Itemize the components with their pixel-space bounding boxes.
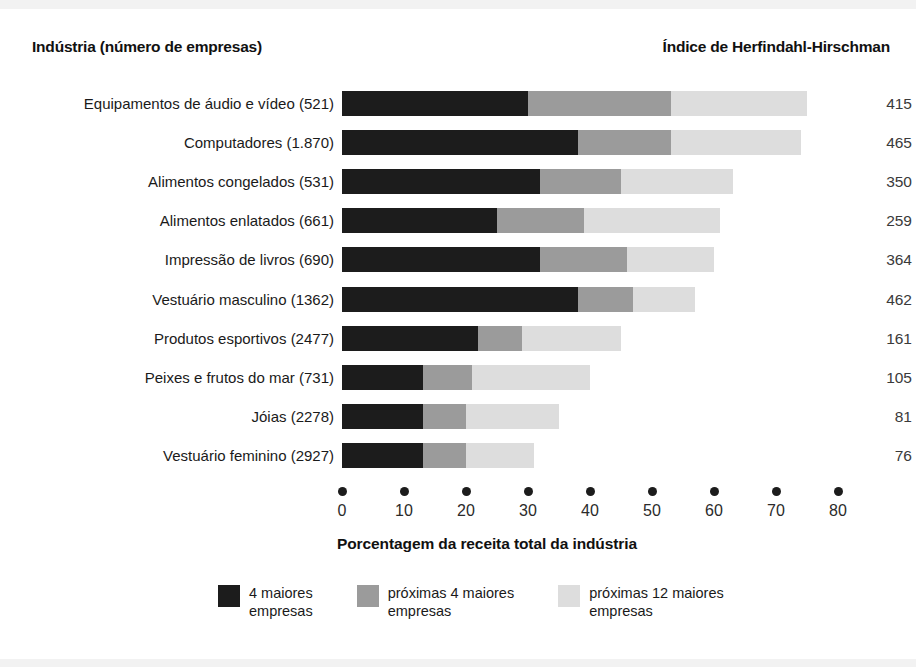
stacked-bar	[342, 130, 801, 155]
chart-row: Peixes e frutos do mar (731)105	[342, 365, 838, 390]
x-axis-title-text: Porcentagem da receita total da indústri…	[337, 535, 637, 553]
x-axis-tick: 30	[508, 487, 548, 519]
x-axis-tick-label: 20	[446, 503, 486, 519]
chart-row: Alimentos enlatados (661)259	[342, 208, 838, 233]
x-axis-tick: 10	[384, 487, 424, 519]
tick-dot-icon	[710, 487, 719, 496]
legend-label-line1: 4 maiores	[249, 584, 313, 602]
tick-dot-icon	[648, 487, 657, 496]
bar-segment-3	[466, 404, 559, 429]
chart-row: Alimentos congelados (531)350	[342, 169, 838, 194]
hhi-value: 350	[838, 169, 912, 194]
row-label-industry: Equipamentos de áudio e vídeo (521)	[84, 91, 334, 116]
hhi-value: 465	[838, 130, 912, 155]
bar-segment-1	[342, 287, 578, 312]
legend-label: próximas 12 maioresempresas	[589, 584, 724, 620]
row-label-industry: Vestuário masculino (1362)	[152, 287, 334, 312]
bar-segment-3	[621, 169, 733, 194]
hhi-value: 462	[838, 287, 912, 312]
stacked-bar	[342, 247, 714, 272]
tick-dot-icon	[338, 487, 347, 496]
bar-segment-3	[466, 443, 534, 468]
legend-label-line2: empresas	[388, 602, 515, 620]
bar-segment-3	[472, 365, 590, 390]
x-axis-tick: 0	[322, 487, 362, 519]
column-header-hhi: Índice de Herfindahl-Hirschman	[663, 38, 890, 56]
chart-row: Jóias (2278)81	[342, 404, 838, 429]
legend-label-line2: empresas	[249, 602, 313, 620]
stacked-bar	[342, 169, 733, 194]
tick-dot-icon	[834, 487, 843, 496]
tick-dot-icon	[462, 487, 471, 496]
bar-segment-3	[584, 208, 720, 233]
hhi-value: 415	[838, 91, 912, 116]
bar-segment-2	[528, 91, 671, 116]
row-label-industry: Vestuário feminino (2927)	[163, 443, 334, 468]
chart-page: Indústria (número de empresas) Índice de…	[0, 0, 916, 667]
stacked-bar	[342, 404, 559, 429]
legend-label: próximas 4 maioresempresas	[388, 584, 515, 620]
x-axis: 01020304050607080	[342, 487, 838, 533]
row-label-industry: Computadores (1.870)	[184, 130, 334, 155]
legend-swatch-icon	[218, 585, 240, 607]
stacked-bar	[342, 91, 807, 116]
x-axis-tick: 20	[446, 487, 486, 519]
legend-swatch-icon	[357, 585, 379, 607]
chart-row: Vestuário masculino (1362)462	[342, 287, 838, 312]
bar-segment-3	[633, 287, 695, 312]
x-axis-tick-label: 60	[694, 503, 734, 519]
stacked-bar	[342, 326, 621, 351]
hhi-value: 76	[838, 443, 912, 468]
bar-segment-1	[342, 130, 578, 155]
x-axis-tick-label: 80	[818, 503, 858, 519]
bar-segment-1	[342, 247, 540, 272]
legend-item: próximas 12 maioresempresas	[558, 584, 724, 620]
x-axis-tick: 80	[818, 487, 858, 519]
chart-legend: 4 maioresempresaspróximas 4 maioresempre…	[218, 584, 724, 620]
hhi-value: 105	[838, 365, 912, 390]
bar-segment-3	[627, 247, 714, 272]
tick-dot-icon	[524, 487, 533, 496]
row-label-industry: Jóias (2278)	[251, 404, 334, 429]
legend-item: 4 maioresempresas	[218, 584, 313, 620]
bar-segment-2	[423, 365, 473, 390]
stacked-bar-plot: Equipamentos de áudio e vídeo (521)415Co…	[342, 91, 838, 485]
bar-segment-3	[522, 326, 621, 351]
row-label-industry: Produtos esportivos (2477)	[154, 326, 334, 351]
bar-segment-1	[342, 208, 497, 233]
chart-row: Produtos esportivos (2477)161	[342, 326, 838, 351]
bar-segment-3	[671, 130, 801, 155]
row-label-industry: Peixes e frutos do mar (731)	[145, 365, 334, 390]
chart-row: Equipamentos de áudio e vídeo (521)415	[342, 91, 838, 116]
bar-segment-1	[342, 91, 528, 116]
legend-label-line1: próximas 12 maiores	[589, 584, 724, 602]
bar-segment-2	[578, 287, 634, 312]
bar-segment-2	[578, 130, 671, 155]
tick-dot-icon	[586, 487, 595, 496]
bar-segment-2	[540, 247, 627, 272]
chart-row: Impressão de livros (690)364	[342, 247, 838, 272]
row-label-industry: Alimentos congelados (531)	[148, 169, 334, 194]
bar-segment-2	[540, 169, 621, 194]
x-axis-tick-label: 10	[384, 503, 424, 519]
legend-swatch-icon	[558, 585, 580, 607]
x-axis-tick-label: 0	[322, 503, 362, 519]
chart-row: Computadores (1.870)465	[342, 130, 838, 155]
hhi-value: 259	[838, 208, 912, 233]
hhi-value: 81	[838, 404, 912, 429]
bar-segment-1	[342, 365, 423, 390]
tick-dot-icon	[400, 487, 409, 496]
legend-label-line1: próximas 4 maiores	[388, 584, 515, 602]
legend-label-line2: empresas	[589, 602, 724, 620]
scan-artifact-top	[0, 0, 916, 9]
stacked-bar	[342, 443, 534, 468]
x-axis-tick-label: 30	[508, 503, 548, 519]
x-axis-tick-label: 40	[570, 503, 610, 519]
bar-segment-1	[342, 404, 423, 429]
row-label-industry: Impressão de livros (690)	[165, 247, 334, 272]
x-axis-tick: 50	[632, 487, 672, 519]
x-axis-tick-label: 70	[756, 503, 796, 519]
legend-label: 4 maioresempresas	[249, 584, 313, 620]
tick-dot-icon	[772, 487, 781, 496]
bar-segment-1	[342, 443, 423, 468]
